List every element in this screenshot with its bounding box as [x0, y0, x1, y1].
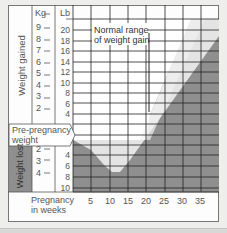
kg-tick: 5: [36, 68, 41, 80]
x-tick: 10: [105, 196, 115, 206]
pre-pregnancy-line1: Pre-pregnancy: [12, 125, 71, 135]
kg-tick: 3: [36, 155, 41, 167]
lb-tick: 16: [56, 46, 70, 57]
kg-header: Kg: [35, 8, 46, 18]
lb-tick: 10: [56, 78, 70, 89]
kg-loss-axis: 2 3 4: [36, 143, 41, 179]
lb-tick: 8: [56, 88, 70, 99]
lb-header: Lb: [60, 8, 70, 18]
pre-pregnancy-line2: weight: [12, 135, 71, 145]
kg-tick: 6: [36, 57, 41, 69]
kg-tick: 7: [36, 45, 41, 57]
x-tick: 20: [141, 196, 151, 206]
lb-tick: 10: [56, 183, 70, 194]
lb-tick: 20: [56, 25, 70, 36]
x-tick: 30: [177, 196, 187, 206]
lb-tick: 14: [56, 57, 70, 68]
lb-tick: 18: [56, 36, 70, 47]
lb-tick: 4: [56, 109, 70, 120]
x-tick: 35: [195, 196, 205, 206]
x-axis-title: Pregnancy in weeks: [31, 195, 74, 215]
lb-tick: 4: [56, 150, 70, 161]
x-tick: 15: [123, 196, 133, 206]
kg-tick: 2: [36, 143, 41, 155]
kg-tick: 4: [36, 80, 41, 92]
lb-tick: 6: [56, 99, 70, 110]
kg-tick: 8: [36, 34, 41, 46]
lb-loss-axis: 4 6 8 10: [56, 150, 70, 194]
kg-tick: 3: [36, 91, 41, 103]
kg-tick: 9: [36, 22, 41, 34]
pre-pregnancy-label: Pre-pregnancy weight: [12, 125, 71, 145]
x-title-line2: in weeks: [31, 205, 74, 215]
kg-tick: 2: [36, 103, 41, 115]
x-tick: 25: [159, 196, 169, 206]
annotation-line2: of weight gain: [94, 35, 150, 45]
kg-tick: 4: [36, 167, 41, 179]
page-bottom-edge: [0, 228, 227, 233]
annotation-line1: Normal range: [94, 25, 150, 35]
x-tick: 5: [88, 196, 93, 206]
lb-tick: 8: [56, 172, 70, 183]
weight-lost-label: Weight lost: [15, 138, 25, 194]
x-title-line1: Pregnancy: [31, 195, 74, 205]
lb-tick: 12: [56, 67, 70, 78]
normal-range-annotation: Normal range of weight gain: [94, 25, 150, 45]
weight-gained-label: Weight gained: [16, 26, 27, 106]
kg-gain-axis: 9 8 7 6 5 4 3 2: [36, 22, 41, 114]
lb-tick: 6: [56, 161, 70, 172]
lb-gain-axis: 20 18 16 14 12 10 8 6 4: [56, 25, 70, 120]
